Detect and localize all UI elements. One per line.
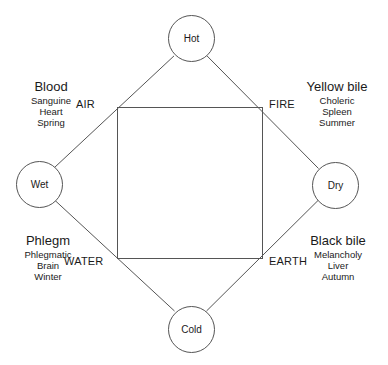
quality-label-cold: Cold <box>181 325 202 335</box>
humor-block-blood: Blood Sanguine Heart Spring <box>1 80 101 128</box>
humor-season-phlegm: Winter <box>0 271 98 282</box>
humor-organ-blood: Heart <box>1 106 101 117</box>
humor-title-yellow-bile: Yellow bile <box>287 80 387 94</box>
quality-label-wet: Wet <box>31 180 49 190</box>
humor-temperament-blood: Sanguine <box>1 95 101 106</box>
quality-node-cold: Cold <box>168 306 215 353</box>
humor-organ-yellow-bile: Spleen <box>287 106 387 117</box>
humor-block-black-bile: Black bile Melancholy Liver Autumn <box>288 234 388 282</box>
quality-label-hot: Hot <box>184 34 200 44</box>
quality-node-wet: Wet <box>16 161 63 208</box>
quality-label-dry: Dry <box>328 181 344 191</box>
humor-block-phlegm: Phlegm Phlegmatic Brain Winter <box>0 234 98 282</box>
humours-diagram: Hot Wet Dry Cold AIR FIRE WATER EARTH Bl… <box>0 0 388 365</box>
humor-organ-black-bile: Liver <box>288 260 388 271</box>
humor-temperament-yellow-bile: Choleric <box>287 95 387 106</box>
humor-season-blood: Spring <box>1 117 101 128</box>
quality-node-hot: Hot <box>168 15 215 62</box>
humor-organ-phlegm: Brain <box>0 260 98 271</box>
quality-node-dry: Dry <box>312 162 359 209</box>
humor-temperament-phlegm: Phlegmatic <box>0 249 98 260</box>
humor-season-black-bile: Autumn <box>288 271 388 282</box>
humor-block-yellow-bile: Yellow bile Choleric Spleen Summer <box>287 80 387 128</box>
humor-title-phlegm: Phlegm <box>0 234 98 248</box>
humor-temperament-black-bile: Melancholy <box>288 249 388 260</box>
humor-title-black-bile: Black bile <box>288 234 388 248</box>
humor-season-yellow-bile: Summer <box>287 117 387 128</box>
humor-title-blood: Blood <box>1 80 101 94</box>
inner-square <box>118 108 263 259</box>
